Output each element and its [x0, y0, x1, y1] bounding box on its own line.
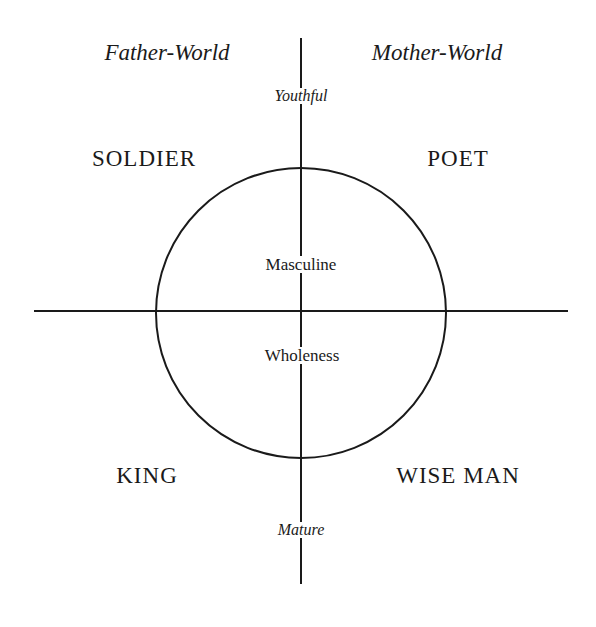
mother-world-label: Mother-World	[372, 41, 502, 64]
youthful-label: Youthful	[273, 88, 330, 104]
wise-man-label: WISE MAN	[396, 464, 520, 487]
king-label: KING	[116, 464, 178, 487]
mature-label: Mature	[276, 522, 327, 538]
poet-label: POET	[427, 147, 489, 170]
wholeness-label: Wholeness	[263, 347, 342, 364]
father-world-label: Father-World	[104, 41, 229, 64]
soldier-label: SOLDIER	[92, 147, 196, 170]
masculine-label: Masculine	[264, 256, 339, 273]
